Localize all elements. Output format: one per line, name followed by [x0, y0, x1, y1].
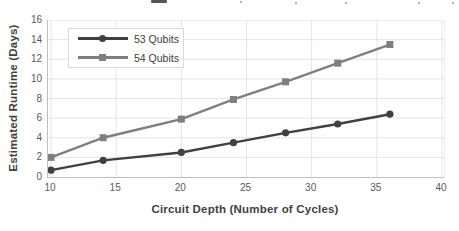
cropped-text-remnant — [151, 0, 167, 3]
series-line-sample — [78, 56, 128, 59]
x-tick-label: 10 — [35, 182, 65, 194]
y-tick-label: 4 — [14, 132, 42, 144]
x-tick-label: 15 — [100, 182, 130, 194]
x-axis-title: Circuit Depth (Number of Cycles) — [47, 203, 443, 215]
y-tick-label: 2 — [14, 151, 42, 163]
legend-item-53-qubits: 53 Qubits — [69, 29, 183, 48]
y-tick-label: 16 — [14, 14, 42, 26]
y-tick-label: 14 — [14, 34, 42, 46]
cropped-text-remnant — [418, 2, 420, 4]
legend-label: 54 Qubits — [134, 52, 179, 64]
cropped-text-remnant — [452, 2, 454, 4]
x-tick-label: 40 — [426, 182, 456, 194]
y-tick-label: 10 — [14, 73, 42, 85]
x-tick-label: 25 — [231, 182, 261, 194]
y-tick-label: 6 — [14, 112, 42, 124]
cropped-text-remnant — [345, 2, 347, 4]
square-marker-icon — [99, 54, 106, 61]
x-tick-label: 35 — [361, 182, 391, 194]
cropped-text-remnant — [295, 2, 297, 4]
x-tick-label: 30 — [296, 182, 326, 194]
legend-label: 53 Qubits — [134, 33, 179, 45]
cropped-text-remnant — [240, 1, 242, 3]
x-tick-label: 20 — [165, 182, 195, 194]
circle-marker-icon — [99, 35, 106, 42]
legend: 53 Qubits 54 Qubits — [68, 28, 184, 68]
y-tick-label: 12 — [14, 53, 42, 65]
line-chart: Estimated Runtime (Days) 0246810121416 1… — [0, 0, 459, 231]
y-tick-label: 8 — [14, 93, 42, 105]
series-line-sample — [78, 37, 128, 40]
legend-item-54-qubits: 54 Qubits — [69, 48, 183, 67]
